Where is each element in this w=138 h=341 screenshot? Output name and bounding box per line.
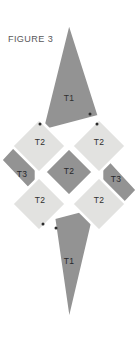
label-diamond-center: T2: [64, 166, 74, 176]
label-triangle-top: T1: [64, 93, 74, 103]
vertex-dot: [55, 227, 58, 230]
label-triangle-bottom: T1: [64, 256, 74, 266]
geometric-tiling-diagram: T1 T2 T2 T2 T2 T2 T3 T3 T1: [0, 0, 138, 341]
label-triangle-right: T3: [111, 174, 121, 184]
figure-canvas: T1 T2 T2 T2 T2 T2 T3 T3 T1 FIGURE 3: [0, 0, 138, 341]
label-diamond-upper-left: T2: [35, 137, 45, 147]
label-triangle-left: T3: [17, 169, 27, 179]
label-diamond-lower-right: T2: [94, 195, 104, 205]
label-diamond-lower-left: T2: [35, 195, 45, 205]
vertex-dot: [42, 223, 45, 226]
label-diamond-upper-right: T2: [94, 137, 104, 147]
vertex-dot: [89, 113, 92, 116]
figure-title: FIGURE 3: [8, 33, 53, 44]
vertex-dot: [39, 123, 42, 126]
vertex-dot: [96, 123, 99, 126]
